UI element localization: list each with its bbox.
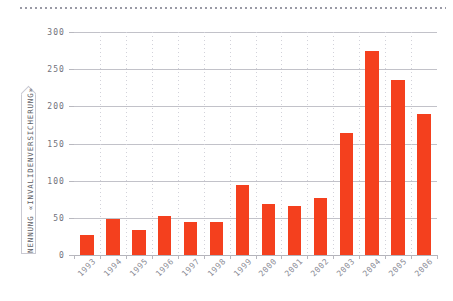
x-tick-mark [230,255,231,259]
x-gridline [178,32,179,255]
x-gridline [385,32,386,255]
y-axis-label-text: NENNUNG «INVALIDENVERSICHERUNG» [25,87,34,253]
y-tick-label: 150 [47,139,65,148]
bar-1996[interactable] [158,216,171,255]
x-tick-label-1999: 1999 [231,257,253,279]
x-tick-label-2000: 2000 [257,257,279,279]
x-gridline [333,32,334,255]
y-axis-label-banner: NENNUNG «INVALIDENVERSICHERUNG» [21,84,38,256]
bar-1999[interactable] [236,185,249,255]
x-tick-label-1994: 1994 [102,257,124,279]
bar-2002[interactable] [314,198,327,255]
x-tick-label-2003: 2003 [335,257,357,279]
x-gridline [281,32,282,255]
bar-1994[interactable] [106,219,119,255]
y-tick-label: 300 [47,28,65,37]
x-tick-label-2002: 2002 [309,257,331,279]
x-tick-mark [256,255,257,259]
y-tick-label: 250 [47,65,65,74]
x-tick-label-1995: 1995 [128,257,150,279]
y-tick-label: 50 [53,213,65,222]
bar-1995[interactable] [132,230,145,255]
x-tick-mark [411,255,412,259]
y-tick-mark [69,69,74,70]
x-tick-mark [100,255,101,259]
bar-2005[interactable] [391,80,404,255]
x-tick-label-1998: 1998 [206,257,228,279]
bar-1998[interactable] [210,222,223,255]
x-gridline [230,32,231,255]
x-gridline [126,32,127,255]
x-gridline [152,32,153,255]
bar-2000[interactable] [262,204,275,255]
y-tick-label: 100 [47,176,65,185]
x-tick-mark [74,255,75,259]
bar-1993[interactable] [80,235,93,255]
x-tick-mark [437,255,438,259]
x-tick-label-1993: 1993 [76,257,98,279]
y-tick-mark [69,181,74,182]
bar-2001[interactable] [288,206,301,255]
y-tick-mark [69,144,74,145]
x-gridline [204,32,205,255]
x-tick-label-2001: 2001 [283,257,305,279]
x-gridline [307,32,308,255]
x-tick-label-1996: 1996 [154,257,176,279]
x-tick-mark [178,255,179,259]
chart-root: NENNUNG «INVALIDENVERSICHERUNG» 05010015… [0,0,453,301]
x-tick-mark [152,255,153,259]
x-tick-label-2006: 2006 [413,257,435,279]
x-tick-mark [359,255,360,259]
bar-1997[interactable] [184,222,197,255]
x-tick-mark [307,255,308,259]
x-tick-mark [204,255,205,259]
y-tick-mark [69,32,74,33]
x-tick-mark [126,255,127,259]
top-dotted-rule [20,7,446,9]
x-tick-mark [281,255,282,259]
x-tick-label-1997: 1997 [180,257,202,279]
bar-2006[interactable] [417,114,430,255]
x-tick-mark [385,255,386,259]
x-tick-mark [333,255,334,259]
x-tick-label-2004: 2004 [361,257,383,279]
y-tick-label: 200 [47,102,65,111]
y-tick-mark [69,218,74,219]
bar-2003[interactable] [340,133,353,255]
x-gridline [256,32,257,255]
x-gridline [411,32,412,255]
y-tick-label: 0 [59,251,65,260]
x-tick-label-2005: 2005 [387,257,409,279]
x-gridline [359,32,360,255]
y-tick-mark [69,106,74,107]
plot-area: 0501001502002503001993199419951996199719… [74,32,437,255]
bar-2004[interactable] [365,51,378,255]
x-gridline [100,32,101,255]
